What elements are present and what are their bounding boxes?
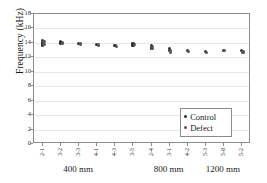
x-tick-label: 2-4 <box>147 141 155 163</box>
y-tick-mark <box>30 129 33 130</box>
legend-marker-control-icon <box>184 115 187 118</box>
y-tick-mark <box>30 100 33 101</box>
y-tick-label: 0 <box>7 140 31 147</box>
legend-label-control: Control <box>190 112 216 122</box>
y-tick-label: 8 <box>7 82 31 89</box>
y-tick-mark <box>30 13 33 14</box>
legend-item-control[interactable]: Control <box>184 111 228 122</box>
gridline <box>34 43 249 44</box>
y-tick-label: 14 <box>7 39 31 46</box>
data-point-defect <box>169 51 172 54</box>
y-tick-mark <box>30 56 33 57</box>
y-tick-mark <box>30 27 33 28</box>
legend-item-defect[interactable]: Defect <box>184 122 228 133</box>
data-point-defect <box>205 51 208 54</box>
data-point-defect <box>61 42 64 45</box>
x-tick-label: 4-1 <box>92 141 100 163</box>
legend-label-defect: Defect <box>190 123 213 133</box>
gridline <box>34 72 249 73</box>
y-tick-label: 12 <box>7 53 31 60</box>
x-tick-label: 3-3 <box>74 141 82 163</box>
x-axis-group-label: 400 mm <box>48 164 108 174</box>
gridline <box>34 86 249 87</box>
x-tick-label: 4-3 <box>110 141 118 163</box>
x-tick-label: 3-5 <box>128 141 136 163</box>
y-tick-mark <box>30 114 33 115</box>
data-point-defect <box>187 50 190 53</box>
data-point-defect <box>97 43 100 46</box>
chart-legend: Control Defect <box>180 108 232 137</box>
frequency-scatter-chart: Frequency (kHz) 024681012141618 2-13-23-… <box>0 0 267 183</box>
x-tick-label: 5-2 <box>237 141 245 163</box>
y-axis-tick-labels: 024681012141618 <box>5 13 31 143</box>
y-tick-label: 18 <box>7 10 31 17</box>
legend-marker-defect-icon <box>184 126 187 129</box>
x-axis-group-label: 1200 mm <box>193 164 253 174</box>
data-point-defect <box>241 50 244 53</box>
y-tick-label: 2 <box>7 126 31 133</box>
data-point-defect <box>133 43 136 46</box>
y-tick-label: 10 <box>7 68 31 75</box>
gridline <box>34 101 249 102</box>
gridline <box>34 28 249 29</box>
y-tick-label: 16 <box>7 24 31 31</box>
data-point-defect <box>42 43 45 46</box>
x-tick-label: 3-1 <box>165 141 173 163</box>
x-tick-label: 3-2 <box>56 141 64 163</box>
y-tick-mark <box>30 143 33 144</box>
x-tick-label: 5-8 <box>219 141 227 163</box>
y-tick-label: 4 <box>7 111 31 118</box>
x-tick-label: 5-3 <box>201 141 209 163</box>
x-axis-group-label: 800 mm <box>139 164 199 174</box>
y-tick-label: 6 <box>7 97 31 104</box>
data-point-defect <box>79 42 82 45</box>
x-tick-label: 4-2 <box>183 141 191 163</box>
y-tick-mark <box>30 85 33 86</box>
y-tick-mark <box>30 71 33 72</box>
x-tick-label: 2-1 <box>38 141 46 163</box>
data-point-defect <box>223 49 226 52</box>
data-point-defect <box>151 47 154 50</box>
gridline <box>34 57 249 58</box>
data-point-defect <box>115 45 118 48</box>
y-tick-mark <box>30 42 33 43</box>
